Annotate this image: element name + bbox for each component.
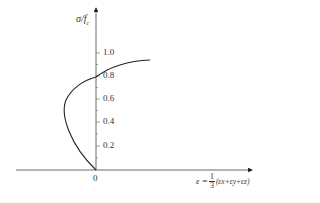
y-tick-label-0.6: 0.6 [103, 94, 114, 103]
x-axis-label: ε = 1 3 (εx+εy+εz) [196, 173, 249, 190]
fraction: 1 3 [209, 173, 215, 190]
y-tick-label-1.0: 1.0 [103, 48, 114, 57]
y-tick-label-0.2: 0.2 [103, 141, 114, 150]
y-ticks [96, 53, 100, 158]
y-tick-label-0.8: 0.8 [103, 71, 114, 80]
y-tick-label-0.4: 0.4 [103, 117, 114, 126]
origin-label: 0 [93, 174, 98, 183]
y-axis-label: σ/fc [76, 14, 89, 26]
